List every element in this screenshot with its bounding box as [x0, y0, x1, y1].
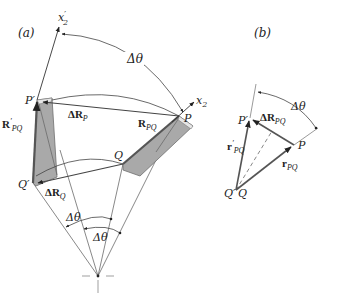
vector-R-PQ-label: RPQ [138, 117, 157, 132]
vector-R-PQ-prime-label: R′PQ [2, 117, 23, 133]
vector-delta-R-Q-label: ΔRQ [45, 186, 66, 201]
axis-x2-label: x2 [196, 94, 207, 109]
panel-a: (a) Δθ Δθ [2, 9, 207, 293]
panel-b: (b) Δθ P′ P Q′ Q ΔRPQ r′PQ rPQ [224, 26, 318, 200]
center-of-rotation-mark [82, 275, 114, 293]
rigid-body-rotation-diagram: (a) Δθ Δθ [0, 0, 338, 306]
point-P-label-b: P [297, 139, 306, 152]
angle-label-bottom-1: Δθ [65, 211, 81, 224]
vector-delta-R-P [43, 102, 179, 116]
angle-arc-top [62, 34, 183, 112]
vector-r-PQ-label: rPQ [282, 157, 298, 172]
point-Q-prime-label: Q′ [18, 178, 30, 191]
point-Q-label-b: Q [238, 187, 247, 200]
point-P-prime-label-b: P′ [237, 114, 248, 127]
point-Q-prime-label-b: Q′ [224, 187, 236, 200]
angle-label-bottom-2: Δθ [92, 231, 108, 244]
point-P-prime-label: P′ [24, 94, 35, 107]
axis-x2-prime [37, 27, 59, 100]
angle-label-top: Δθ [126, 52, 144, 66]
rigid-body-rotated [33, 98, 57, 186]
angle-label-b: Δθ [290, 100, 306, 113]
panel-b-label: (b) [254, 26, 271, 40]
vector-delta-R-PQ-label: ΔRPQ [260, 111, 286, 126]
rigid-body-original [123, 116, 193, 176]
panel-a-label: (a) [18, 26, 35, 40]
vector-r-PQ-prime-label: r′PQ [227, 139, 245, 155]
reference-line-rotated [250, 84, 256, 118]
axis-x2-prime-label: x′2 [58, 9, 68, 27]
vector-delta-R-PQ [253, 120, 294, 145]
vector-delta-R-P-label: ΔRP [68, 108, 88, 123]
point-P-label: P [183, 112, 192, 125]
point-Q-label: Q [114, 149, 123, 162]
vector-r-PQ-prime [236, 121, 249, 190]
